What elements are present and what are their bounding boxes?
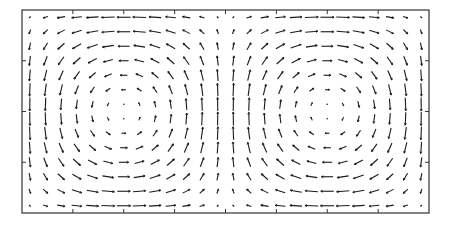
arrow-shaft [404,158,407,167]
arrow-shaft [29,16,31,18]
vector-arrow [200,70,203,81]
vector-arrow [88,58,97,63]
vector-arrow [387,174,394,180]
vector-arrow [153,130,157,136]
vector-arrow [149,16,161,18]
vector-arrow [263,128,266,139]
vector-arrow [217,127,219,140]
vector-arrow [248,112,250,125]
vector-arrow [261,174,268,180]
vector-arrow [119,60,129,62]
arrow-shaft [370,174,379,179]
vector-arrow [90,130,94,136]
vector-arrow [182,16,190,18]
vector-arrow [386,189,393,193]
arrow-shaft [388,143,392,153]
arrow-shaft [233,205,235,207]
vector-arrow [121,133,126,134]
vector-arrow [261,204,269,206]
vector-arrow [105,74,112,77]
arrow-shaft [292,160,301,165]
arrow-shaft [247,173,251,180]
vector-arrow [44,142,47,153]
vector-arrow [263,84,266,95]
arrow-shaft [387,57,393,65]
vector-arrow [166,204,176,206]
vector-arrow [200,84,202,96]
vector-arrow [72,44,81,49]
vector-arrow [403,17,408,19]
arrow-shaft [202,112,203,125]
vector-arrow [184,70,188,80]
vector-arrow [200,16,205,18]
vector-arrow [420,16,422,18]
arrow-shaft [261,174,268,180]
arrow-shaft [166,44,175,49]
vector-arrow [261,30,268,34]
vector-arrow [321,45,333,47]
vector-arrow [324,147,331,149]
vector-arrow [57,30,64,34]
vector-arrow [217,142,219,154]
arrow-shaft [262,57,268,65]
vector-arrow [261,43,268,49]
vector-arrow [149,205,161,207]
vector-arrow [233,83,235,96]
vector-arrow [217,29,219,34]
vector-arrow [420,205,422,207]
vector-arrow [107,103,109,106]
vector-arrow [29,43,31,50]
vector-arrow [169,85,173,94]
vector-arrow [139,103,141,106]
arrow-shaft [72,44,81,49]
vector-arrow [403,205,408,207]
vector-arrow [200,30,205,34]
vector-arrow [370,174,379,179]
vector-arrow [404,70,407,81]
arrow-shaft [387,174,394,180]
arrow-shaft [233,127,234,140]
plot-frame [22,10,429,213]
vector-arrow [233,69,235,81]
vector-arrow [389,99,391,110]
vector-arrow [293,145,299,150]
arrow-shaft [405,112,406,125]
vector-arrow [44,70,47,81]
vector-arrow [279,85,283,94]
arrow-shaft [371,159,378,165]
vector-arrow [45,112,47,125]
vector-arrow [133,205,146,207]
vector-arrow [135,161,144,164]
vector-arrow [167,159,174,165]
arrow-shaft [249,112,250,125]
vector-arrow [75,129,79,138]
vector-arrow [75,85,79,94]
vector-arrow [371,71,376,79]
vector-arrow [275,30,285,33]
vector-arrow [420,127,422,140]
vector-arrow [72,205,82,207]
vector-arrow [279,114,281,123]
vector-arrow [134,45,145,47]
vector-arrow [88,160,97,165]
arrow-shaft [233,83,234,96]
vector-arrow [43,205,48,207]
vector-field-plot [0,0,455,230]
vector-arrow [168,144,173,152]
vector-arrow [166,16,176,18]
vector-arrow [167,58,174,64]
vector-arrow [420,142,422,154]
vector-arrow [73,58,80,64]
vector-arrow [92,116,94,122]
vector-arrow [388,70,392,80]
vector-arrow [338,161,347,164]
vector-arrow [201,142,204,153]
vector-arrow [149,30,161,33]
vector-arrow [280,100,282,109]
vector-arrow [29,173,31,180]
vector-arrow [247,205,252,207]
vector-arrow [339,74,346,77]
vector-arrow [169,129,173,138]
vector-arrow [293,73,299,78]
arrow-shaft [30,83,31,96]
